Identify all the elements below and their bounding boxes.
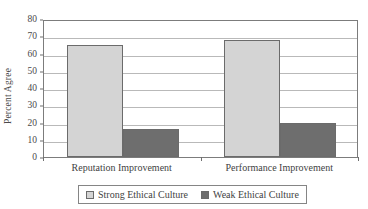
plot-area [43, 20, 358, 158]
y-axis-tick-label: 0 [32, 153, 37, 163]
x-axis-tick-mark [358, 157, 359, 161]
legend-label: Strong Ethical Culture [98, 189, 188, 200]
x-axis-category-labels: Reputation ImprovementPerformance Improv… [43, 160, 358, 178]
bar-chart: Percent Agree 01020304050607080 Reputati… [0, 0, 368, 209]
y-axis-tick-label: 10 [28, 136, 38, 146]
y-axis-tick-labels: 01020304050607080 [18, 20, 40, 158]
y-axis-tick-label: 40 [28, 84, 38, 94]
y-axis-tick-label: 70 [28, 33, 38, 43]
y-axis-tick-label: 80 [28, 15, 38, 25]
legend-swatch-icon [86, 191, 94, 199]
bar-group [44, 21, 202, 157]
x-axis-tick-mark [201, 157, 202, 161]
chart-legend: Strong Ethical CultureWeak Ethical Cultu… [78, 185, 307, 204]
legend-item[interactable]: Weak Ethical Culture [201, 189, 299, 200]
legend-label: Weak Ethical Culture [213, 189, 299, 200]
x-axis-category-label: Reputation Improvement [43, 162, 201, 173]
bar [224, 40, 280, 157]
y-axis-tick-label: 30 [28, 102, 38, 112]
bar-group [202, 21, 359, 157]
x-axis-tick-mark [43, 157, 44, 161]
x-axis-category-label: Performance Improvement [201, 162, 359, 173]
y-axis-title: Percent Agree [0, 46, 16, 146]
y-axis-tick-label: 20 [28, 119, 38, 129]
legend-item[interactable]: Strong Ethical Culture [86, 189, 188, 200]
legend-swatch-icon [201, 191, 209, 199]
bar [280, 123, 336, 158]
bar [123, 129, 179, 157]
y-axis-tick-label: 50 [28, 67, 38, 77]
bar [67, 45, 123, 157]
y-axis-title-text: Percent Agree [3, 68, 13, 124]
y-axis-tick-label: 60 [28, 50, 38, 60]
